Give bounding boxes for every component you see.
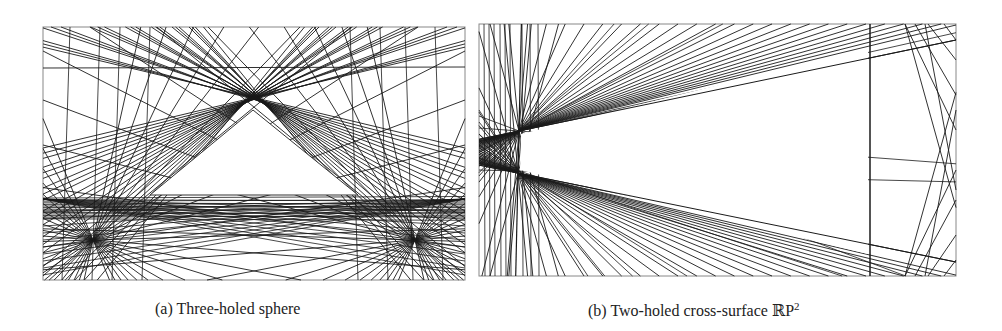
caption-b: (b) Two-holed cross-surface ℝP2 — [588, 300, 800, 320]
caption-b-label: (b) — [588, 302, 607, 319]
caption-b-text: Two-holed cross-surface — [610, 302, 771, 319]
caption-b-superscript: 2 — [794, 300, 800, 312]
panel-b-two-holed-cross-surface — [0, 0, 1002, 295]
geodesic-plot-b — [0, 0, 1002, 295]
caption-a: (a) Three-holed sphere — [155, 300, 300, 318]
caption-a-label: (a) — [155, 300, 173, 317]
caption-a-text: Three-holed sphere — [176, 300, 300, 317]
caption-b-math: ℝP — [772, 302, 794, 319]
